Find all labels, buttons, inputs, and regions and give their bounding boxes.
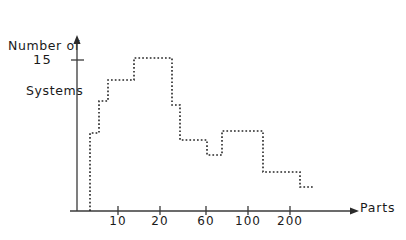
y-axis-arrow-icon xyxy=(73,35,80,44)
histogram-step-line xyxy=(90,58,313,211)
x-axis-arrow-icon xyxy=(350,207,359,214)
chart-canvas xyxy=(0,0,406,240)
x-axis-group xyxy=(70,206,359,215)
y-axis-group xyxy=(71,35,84,211)
chart-figure: Number of Systems 15 10 20 60 100 200 Pa… xyxy=(0,0,406,240)
